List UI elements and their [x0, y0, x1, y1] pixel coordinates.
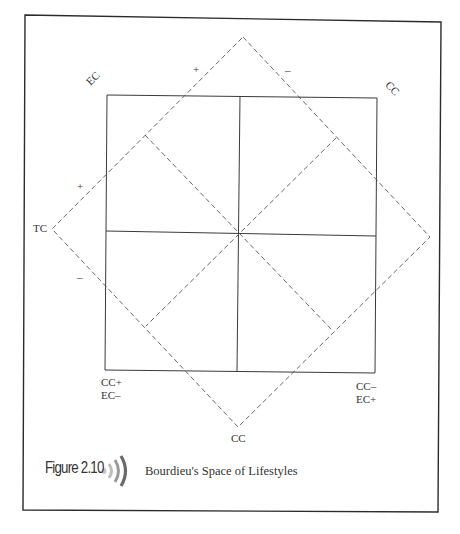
figure-number: Figure 2.10: [45, 458, 104, 478]
audio-speaker-icon: [102, 456, 126, 486]
sign-top-left-plus: +: [193, 63, 199, 75]
label-bottom-right-line2: EC+: [356, 393, 376, 406]
label-bottom-left-line1: CC+: [101, 376, 122, 389]
label-cc-bottom: CC: [231, 432, 246, 445]
label-bottom-left-line2: EC–: [101, 389, 121, 402]
sign-left-plus: +: [77, 180, 83, 192]
label-bottom-right-line1: CC–: [356, 380, 376, 393]
sign-top-right-minus: –: [285, 64, 291, 76]
figure-title: Bourdieu's Space of Lifestyles: [145, 464, 298, 479]
label-tc-left: TC: [33, 222, 47, 235]
sign-left-minus: –: [77, 271, 83, 283]
